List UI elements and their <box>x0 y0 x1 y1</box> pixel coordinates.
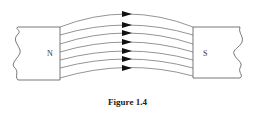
arrow-icon <box>122 48 132 54</box>
north-magnet <box>13 27 60 80</box>
arrow-icon <box>122 65 132 71</box>
south-label: S <box>203 49 207 58</box>
north-label: N <box>47 49 53 58</box>
arrow-icon <box>122 56 132 62</box>
figure-caption: Figure 1.4 <box>0 97 255 107</box>
arrow-icon <box>122 39 132 45</box>
arrow-icon <box>122 22 132 28</box>
arrow-icon <box>122 30 132 36</box>
south-magnet <box>193 27 242 78</box>
arrow-icon <box>122 11 132 17</box>
field-arrows <box>122 11 132 71</box>
